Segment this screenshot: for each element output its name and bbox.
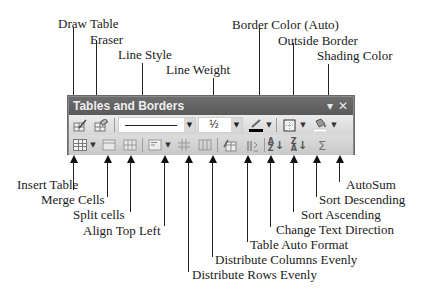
label-table-auto-format: Table Auto Format xyxy=(250,238,348,252)
leader-sort-ascending xyxy=(293,162,294,212)
label-merge-cells: Merge Cells xyxy=(41,193,105,207)
leader-draw-table xyxy=(73,28,74,102)
leader-distribute-rows xyxy=(188,162,189,272)
outside-border-dropdown[interactable]: ▼ xyxy=(299,117,307,133)
leader-autosum xyxy=(339,162,340,182)
label-insert-table: Insert Table xyxy=(17,178,78,192)
sort-az-icon: AZ↓ xyxy=(268,138,284,152)
paint-bucket-icon xyxy=(312,118,328,132)
leader-merge-cells xyxy=(107,162,108,197)
label-split-cells: Split cells xyxy=(73,208,125,222)
label-align-top-left: Align Top Left xyxy=(83,224,161,238)
label-line-weight: Line Weight xyxy=(166,63,230,77)
line-style-combo[interactable]: ▼ xyxy=(118,117,196,133)
leader-change-text-direction xyxy=(270,162,271,227)
separator xyxy=(142,138,143,152)
border-color-dropdown[interactable]: ▼ xyxy=(265,117,273,133)
annotated-toolbar-diagram: Draw Table Eraser Line Style Line Weight… xyxy=(0,0,421,296)
close-icon[interactable]: ✕ xyxy=(338,97,348,115)
sort-ascending-button[interactable]: AZ↓ xyxy=(267,137,285,153)
label-distribute-columns: Distribute Columns Evenly xyxy=(215,253,357,267)
label-sort-ascending: Sort Ascending xyxy=(301,208,381,222)
shading-color-button[interactable] xyxy=(311,117,329,133)
chevron-down-icon[interactable]: ▼ xyxy=(184,118,195,132)
distribute-rows-icon xyxy=(177,139,191,151)
align-top-left-button[interactable] xyxy=(146,137,164,153)
distribute-columns-icon xyxy=(198,139,212,151)
label-autosum: AutoSum xyxy=(346,178,396,192)
label-draw-table: Draw Table xyxy=(58,17,119,31)
sort-za-icon: ZA↓ xyxy=(291,138,307,152)
insert-table-button[interactable] xyxy=(71,137,89,153)
align-dropdown[interactable]: ▼ xyxy=(164,137,172,153)
sort-descending-button[interactable]: ZA↓ xyxy=(290,137,308,153)
toolbar-row-1: ▼ ½ ▼ ▼ ▼ ▼ xyxy=(69,115,353,135)
merge-cells-button[interactable] xyxy=(100,137,118,153)
merge-icon xyxy=(102,139,116,151)
shading-color-dropdown[interactable]: ▼ xyxy=(330,117,338,133)
label-eraser: Eraser xyxy=(90,33,123,47)
leader-sort-descending xyxy=(316,162,317,197)
line-weight-combo[interactable]: ½ ▼ xyxy=(198,117,243,133)
border-color-button[interactable] xyxy=(247,117,265,133)
separator xyxy=(264,138,265,152)
eraser-button[interactable] xyxy=(92,117,110,133)
table-grid-icon xyxy=(73,139,87,151)
toolbar-row-2: ▼ ▼ xyxy=(69,135,353,155)
outside-border-button[interactable] xyxy=(280,117,298,133)
label-sort-descending: Sort Descending xyxy=(319,193,405,207)
split-cells-button[interactable] xyxy=(121,137,139,153)
pencil-table-icon xyxy=(73,119,87,132)
toolbar-options-icon[interactable]: ▾ xyxy=(327,97,333,115)
eraser-icon xyxy=(94,119,108,132)
autoformat-icon xyxy=(223,139,237,152)
autosum-button[interactable]: Σ xyxy=(313,137,331,153)
separator xyxy=(276,118,277,132)
label-shading-color: Shading Color xyxy=(317,49,392,63)
leader-table-auto-format xyxy=(247,162,248,242)
distribute-columns-button[interactable] xyxy=(196,137,214,153)
border-grid-icon xyxy=(283,119,296,132)
chevron-down-icon[interactable]: ▼ xyxy=(231,118,242,132)
label-line-style: Line Style xyxy=(118,48,172,62)
table-auto-format-button[interactable] xyxy=(221,137,239,153)
draw-table-button[interactable] xyxy=(71,117,89,133)
separator xyxy=(114,118,115,132)
pen-color-icon xyxy=(248,118,264,132)
toolbar-title: Tables and Borders xyxy=(73,99,184,113)
leader-eraser xyxy=(96,40,97,102)
tables-and-borders-toolbar: Tables and Borders ▾ ✕ ▼ ½ ▼ ▼ xyxy=(67,95,355,155)
sigma-icon: Σ xyxy=(318,138,326,153)
split-icon xyxy=(123,139,137,151)
label-change-text-direction: Change Text Direction xyxy=(276,223,394,237)
line-style-preview xyxy=(125,125,177,126)
leader-align-top-left xyxy=(164,162,165,226)
change-text-direction-button[interactable] xyxy=(243,137,261,153)
label-outside-border: Outside Border xyxy=(278,34,358,48)
align-icon xyxy=(148,139,162,151)
text-direction-icon xyxy=(245,139,259,152)
separator xyxy=(217,138,218,152)
toolbar-titlebar[interactable]: Tables and Borders ▾ ✕ xyxy=(69,97,353,115)
line-weight-value: ½ xyxy=(209,118,219,132)
leader-distribute-columns xyxy=(212,162,213,257)
leader-split-cells xyxy=(130,162,131,212)
insert-table-dropdown[interactable]: ▼ xyxy=(89,137,97,153)
label-distribute-rows: Distribute Rows Evenly xyxy=(192,268,317,282)
distribute-rows-button[interactable] xyxy=(175,137,193,153)
label-border-color: Border Color (Auto) xyxy=(232,18,339,32)
